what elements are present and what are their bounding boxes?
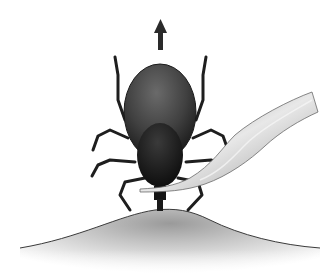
tick-removal-illustration: Illustration of a tick being removed fro…	[0, 0, 334, 280]
skin-bump	[0, 209, 334, 280]
up-arrow-icon	[154, 19, 167, 50]
tick-scutum	[137, 123, 183, 187]
illustration-canvas	[0, 0, 334, 280]
